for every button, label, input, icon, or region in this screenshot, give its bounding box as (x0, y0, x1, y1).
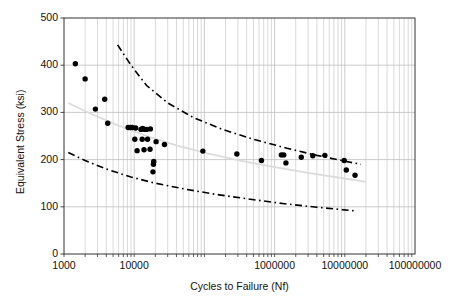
x-tick-label: 10000 (74, 259, 194, 271)
y-tick-label: 100 (18, 200, 58, 212)
x-tick-label: 100000000 (355, 259, 449, 271)
data-points (73, 61, 358, 178)
series-line-2 (68, 153, 357, 212)
y-tick-label: 400 (18, 58, 58, 70)
x-major-gridlines (134, 18, 345, 254)
plot-frame (64, 18, 415, 254)
y-tick-label: 500 (18, 11, 58, 23)
x-axis-label: Cycles to Failure (Nf) (140, 280, 340, 292)
y-tick-label: 300 (18, 105, 58, 117)
y-major-gridlines (64, 65, 415, 207)
series-line-1 (118, 45, 361, 164)
chart-container: Equivalent Stress (ksi) Cycles to Failur… (0, 0, 449, 305)
y-tick-label: 200 (18, 153, 58, 165)
y-tick-label: 0 (18, 247, 58, 259)
y-axis-ticks (61, 18, 65, 254)
